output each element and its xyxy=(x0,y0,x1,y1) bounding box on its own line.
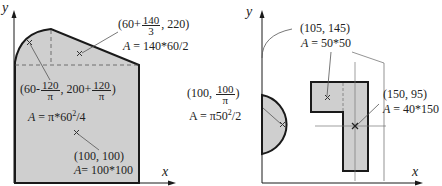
y-axis-arrow-icon xyxy=(260,10,265,18)
x-axis-label-left: x xyxy=(162,164,168,180)
y-axis-label-right: y xyxy=(246,4,252,20)
x-axis-arrow-icon xyxy=(415,181,423,186)
semicircle-area-label: A = π502/2 xyxy=(189,106,241,123)
triangle-centroid-label: (60+1403, 220) xyxy=(118,15,189,36)
y-axis-label-left: y xyxy=(2,0,8,16)
triangle-area-label: A = 140*60/2 xyxy=(123,40,188,53)
semicircle-centroid-label: (100, 100π) xyxy=(187,84,240,105)
x-axis-arrow-icon xyxy=(168,181,176,186)
leader-curve-y-axis xyxy=(262,29,292,58)
square-area-label: A= 100*100 xyxy=(74,164,133,177)
y-axis-arrow-icon xyxy=(12,10,17,18)
quarter-circle-area-label: A = π*602/4 xyxy=(28,107,86,124)
l-shape xyxy=(311,82,368,171)
tall-rect-centroid-label: (150, 95) xyxy=(383,88,427,101)
small-square-centroid-label: (105, 145) xyxy=(300,22,350,35)
fraction: 1403 xyxy=(142,15,161,36)
quarter-circle-centroid-label: (60-120π, 200+120π) xyxy=(20,80,116,101)
small-square-area-label: A = 50*50 xyxy=(301,37,351,50)
x-axis-label-right: x xyxy=(412,164,418,180)
tall-rect-area-label: A = 40*150 xyxy=(383,103,439,116)
square-centroid-label: (100, 100) xyxy=(74,150,124,163)
